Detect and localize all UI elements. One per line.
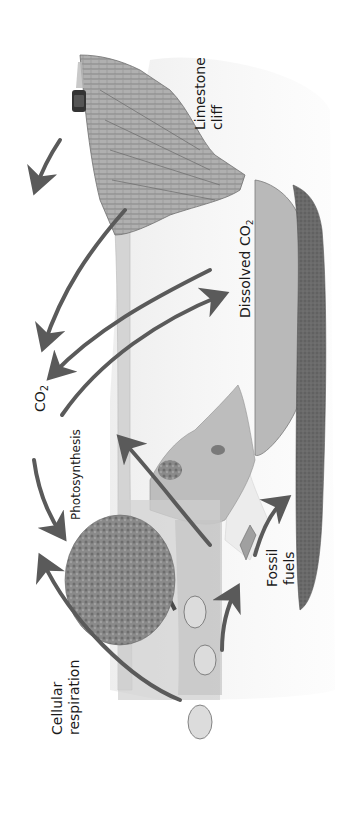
shrub — [158, 460, 182, 480]
shrub — [211, 445, 225, 455]
landscape — [65, 55, 335, 739]
tree — [65, 515, 175, 645]
fossil-fuels-label-line2: fuels — [281, 551, 297, 585]
fossil-fuels-label-line1: Fossil — [264, 549, 280, 588]
cellular-respiration-label-line2: respiration — [66, 660, 82, 735]
carbon-cycle-diagram: Limestone cliff Dissolved CO2 CO2 Photos… — [0, 0, 354, 815]
animal — [188, 705, 212, 739]
diagram-canvas: Limestone cliff Dissolved CO2 CO2 Photos… — [0, 0, 354, 815]
limestone-label-line2: cliff — [209, 105, 225, 130]
animal — [184, 596, 206, 628]
co2-label: CO2 — [32, 385, 50, 412]
photosynthesis-arrow — [34, 460, 62, 535]
vehicle-exhaust-to-atmosphere-arrow — [36, 140, 60, 188]
limestone-label-line1: Limestone — [192, 57, 208, 130]
photosynthesis-label: Photosynthesis — [69, 429, 83, 520]
animal — [194, 645, 216, 675]
cellular-respiration-label-line1: Cellular — [49, 681, 65, 735]
dissolved-co2-label: Dissolved CO2 — [237, 220, 255, 318]
